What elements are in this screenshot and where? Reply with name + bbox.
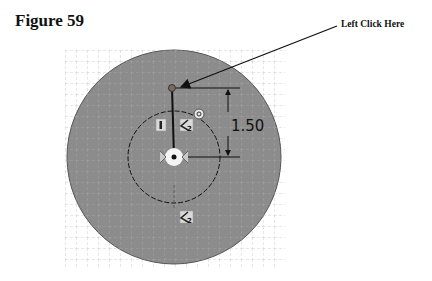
line-endpoint[interactable] (169, 85, 176, 92)
svg-text:2: 2 (187, 125, 192, 133)
vertical-relation-icon[interactable] (156, 119, 166, 131)
dimension-value[interactable]: 1.50 (231, 117, 264, 135)
coincident-relation-icon-bottom[interactable]: 2 (180, 211, 193, 225)
concentric-relation-icon[interactable] (194, 109, 204, 119)
sketch-canvas[interactable]: 1.50 2 2 (0, 0, 432, 281)
svg-text:2: 2 (187, 217, 192, 225)
coincident-relation-icon[interactable]: 2 (180, 119, 193, 133)
